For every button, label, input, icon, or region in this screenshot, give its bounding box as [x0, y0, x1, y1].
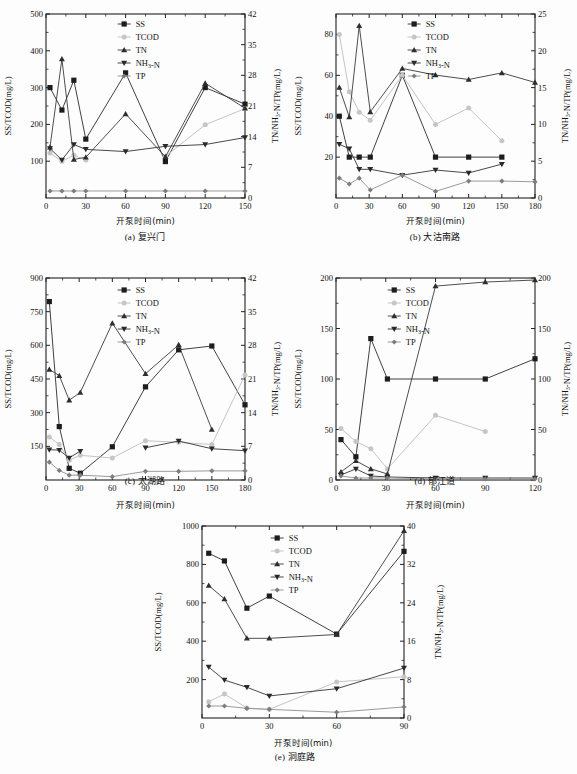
datapoint-d-TCOD-0 [338, 426, 343, 431]
svg-text:开泵时间(min): 开泵时间(min) [406, 500, 465, 510]
svg-text:120: 120 [462, 201, 475, 211]
datapoint-a-TP-3 [83, 188, 88, 193]
legend-b: SSTCODTNNH3-NTP [408, 19, 450, 81]
svg-text:600: 600 [30, 340, 43, 350]
datapoint-c-SS-0 [47, 299, 52, 304]
datapoint-c-NHN-5 [143, 446, 149, 451]
svg-text:42: 42 [248, 273, 257, 283]
svg-text:TN: TN [136, 45, 147, 55]
svg-text:30: 30 [365, 201, 374, 211]
svg-text:90: 90 [431, 201, 440, 211]
svg-text:TP: TP [289, 585, 299, 595]
datapoint-a-SS-5 [163, 159, 168, 164]
svg-text:200: 200 [186, 675, 199, 685]
datapoint-c-SS-8 [242, 402, 247, 407]
datapoint-e-SS-1 [222, 558, 227, 563]
svg-text:开泵时间(min): 开泵时间(min) [116, 216, 175, 226]
svg-text:SS: SS [406, 285, 416, 295]
svg-text:60: 60 [121, 201, 130, 211]
svg-text:开泵时间(min): 开泵时间(min) [406, 216, 465, 226]
datapoint-a-SS-2 [71, 78, 76, 83]
svg-text:15: 15 [538, 83, 547, 93]
svg-text:400: 400 [30, 46, 43, 56]
svg-text:450: 450 [30, 374, 43, 384]
datapoint-c-TCOD-5 [143, 438, 148, 443]
datapoint-a-TN-6 [202, 80, 208, 85]
datapoint-a-TP-6 [203, 188, 208, 193]
datapoint-c-TN-0 [46, 366, 52, 371]
datapoint-a-TP-7 [242, 188, 247, 193]
datapoint-e-TP-4 [334, 710, 339, 715]
datapoint-c-TCOD-0 [47, 434, 52, 439]
svg-text:SS/TCOD(mg/L): SS/TCOD(mg/L) [293, 349, 303, 408]
plot-a: 0306090120150100200300400500071421283542… [0, 0, 287, 228]
datapoint-b-TP-5 [433, 189, 438, 194]
svg-text:60: 60 [332, 721, 341, 731]
svg-text:50: 50 [538, 425, 547, 435]
svg-text:400: 400 [186, 636, 199, 646]
datapoint-c-TN-1 [56, 373, 62, 378]
svg-text:600: 600 [186, 598, 199, 608]
svg-text:300: 300 [30, 83, 43, 93]
svg-text:32: 32 [407, 559, 416, 569]
datapoint-a-TN-1 [59, 56, 65, 61]
svg-text:35: 35 [248, 307, 257, 317]
svg-text:TCOD: TCOD [136, 32, 159, 42]
legend-e: SSTCODTNNH3-NTP [271, 533, 313, 595]
datapoint-c-TN-7 [209, 427, 215, 432]
svg-text:30: 30 [265, 721, 274, 731]
datapoint-c-SS-1 [57, 424, 62, 429]
datapoint-c-TN-4 [109, 320, 115, 325]
svg-text:TCOD: TCOD [289, 546, 312, 556]
svg-text:TN/NH3-N/TP(mg/L): TN/NH3-N/TP(mg/L) [270, 342, 282, 416]
svg-text:28: 28 [248, 70, 257, 80]
datapoint-a-TN-4 [123, 111, 129, 116]
datapoint-e-SS-2 [244, 606, 249, 611]
svg-text:0: 0 [44, 201, 48, 211]
svg-text:TCOD: TCOD [406, 298, 429, 308]
svg-text:TN/NH3-N/TP(mg/L): TN/NH3-N/TP(mg/L) [560, 342, 572, 416]
datapoint-e-TCOD-5 [402, 674, 407, 679]
datapoint-e-SS-3 [267, 593, 272, 598]
datapoint-d-TCOD-1 [353, 439, 358, 444]
datapoint-e-TP-0 [206, 703, 211, 708]
caption-e: (e) 洞庭路 [180, 750, 410, 763]
datapoint-b-TN-2 [356, 23, 362, 28]
datapoint-e-TP-3 [267, 707, 272, 712]
svg-text:28: 28 [248, 340, 257, 350]
svg-text:SS: SS [289, 533, 299, 543]
datapoint-d-SS-2 [368, 336, 373, 341]
datapoint-c-TCOD-7 [209, 442, 214, 447]
datapoint-e-SS-0 [206, 551, 211, 556]
svg-text:100: 100 [320, 374, 333, 384]
svg-text:0: 0 [538, 193, 542, 203]
svg-text:80: 80 [325, 29, 334, 39]
svg-text:21: 21 [248, 374, 257, 384]
datapoint-e-SS-5 [401, 549, 406, 554]
datapoint-a-TP-1 [59, 188, 64, 193]
datapoint-c-NHN-3 [77, 449, 83, 454]
svg-text:TCOD: TCOD [136, 298, 159, 308]
svg-text:14: 14 [248, 132, 257, 142]
datapoint-a-TCOD-6 [203, 122, 208, 127]
svg-text:60: 60 [325, 70, 334, 80]
datapoint-b-TCOD-2 [357, 110, 362, 115]
datapoint-b-SS-3 [368, 155, 373, 160]
svg-text:16: 16 [407, 636, 416, 646]
svg-text:NH3-N: NH3-N [136, 324, 160, 336]
svg-text:TP: TP [406, 337, 416, 347]
svg-text:750: 750 [30, 307, 43, 317]
svg-text:SS: SS [136, 19, 146, 29]
datapoint-b-TN-7 [499, 70, 505, 75]
datapoint-a-SS-1 [59, 107, 64, 112]
legend-d: SSTCODTNNH3-NTP [388, 285, 430, 347]
datapoint-c-TCOD-4 [110, 456, 115, 461]
svg-text:50: 50 [325, 425, 334, 435]
datapoint-c-SS-4 [110, 444, 115, 449]
svg-text:42: 42 [248, 9, 257, 19]
svg-text:TN: TN [136, 311, 147, 321]
datapoint-b-TCOD-0 [337, 32, 342, 37]
svg-text:150: 150 [538, 324, 551, 334]
svg-text:TN/NH3-N/TP(mg/L): TN/NH3-N/TP(mg/L) [560, 69, 572, 143]
caption-d: (d) 郁江道 [320, 474, 550, 487]
